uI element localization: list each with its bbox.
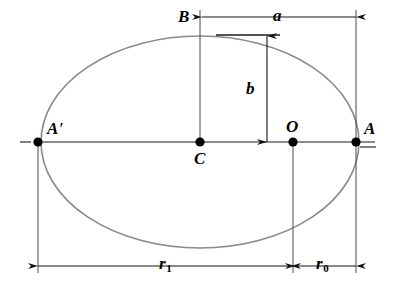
label-semiminor-top-point: B (178, 8, 189, 25)
label-apoapsis-distance-subscript: 1 (166, 262, 172, 274)
label-periapsis-distance-subscript: 0 (323, 262, 329, 274)
label-apoapsis: A' (47, 120, 63, 137)
ellipse-diagram-figure: A' C O A B a b r1 r0 (0, 0, 397, 295)
label-apoapsis-distance: r1 (159, 255, 172, 274)
label-center: C (194, 150, 205, 167)
label-semi-minor-axis: b (246, 80, 255, 97)
label-periapsis: A (364, 120, 375, 137)
diagram-canvas (0, 0, 397, 295)
label-focus: O (286, 118, 298, 135)
label-periapsis-distance: r0 (316, 255, 329, 274)
point-marker-center (195, 137, 204, 146)
point-marker-apoapsis (33, 137, 42, 146)
point-marker-focus (288, 137, 297, 146)
label-periapsis-distance-symbol: r (316, 254, 323, 273)
label-apoapsis-distance-symbol: r (159, 254, 166, 273)
point-marker-periapsis (351, 137, 360, 146)
label-semi-major-axis: a (273, 7, 282, 24)
